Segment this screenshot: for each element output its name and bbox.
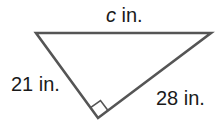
- right-angle-marker: [91, 101, 109, 111]
- left-leg-label: 21 in.: [11, 73, 60, 95]
- hypotenuse-unit: in.: [116, 4, 143, 26]
- right-leg-label: 28 in.: [156, 87, 205, 109]
- hypotenuse-variable: c: [106, 4, 116, 26]
- hypotenuse-label: c in.: [106, 4, 143, 26]
- triangle-diagram: c in. 21 in. 28 in.: [0, 0, 224, 134]
